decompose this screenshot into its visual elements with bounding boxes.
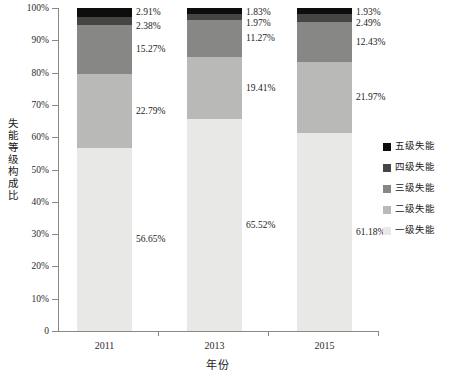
legend-swatch-icon xyxy=(383,164,391,172)
legend-item-一级失能[interactable]: 一级失能 xyxy=(383,220,455,241)
y-axis-tick-label-wrap: 70% xyxy=(0,100,49,110)
bar-2015 xyxy=(297,8,352,331)
data-label-2011-三级失能: 15.27% xyxy=(136,44,165,55)
bar-segment-一级失能 xyxy=(187,119,242,331)
bar-segment-二级失能 xyxy=(77,74,132,148)
y-axis-tick-label-wrap: 100% xyxy=(0,3,49,13)
y-axis-tick-label: 90% xyxy=(32,35,49,45)
y-axis-tick-label: 40% xyxy=(32,197,49,207)
bar-segment-五级失能 xyxy=(187,8,242,14)
y-axis-tick-label: 10% xyxy=(32,294,49,304)
y-axis-tick-label-wrap: 80% xyxy=(0,68,49,78)
legend-item-三级失能[interactable]: 三级失能 xyxy=(383,178,455,199)
stacked-bar-chart: 100%90%80%70%60%50%40%30%20%10%0 2011201… xyxy=(0,0,455,381)
legend-swatch-icon xyxy=(383,185,391,193)
data-label-2015-一级失能: 61.18% xyxy=(356,227,385,238)
bar-segment-三级失能 xyxy=(77,25,132,74)
y-axis-tick-label: 60% xyxy=(32,132,49,142)
bar-segment-三级失能 xyxy=(297,22,352,62)
y-axis-tick xyxy=(52,8,58,9)
legend-item-二级失能[interactable]: 二级失能 xyxy=(383,199,455,220)
data-label-2011-五级失能: 2.91% xyxy=(136,7,161,18)
legend-label: 一级失能 xyxy=(395,225,435,236)
bar-2011 xyxy=(77,8,132,331)
bar-segment-三级失能 xyxy=(187,20,242,56)
data-label-2013-五级失能: 1.83% xyxy=(246,7,271,18)
y-axis-tick xyxy=(52,73,58,74)
data-label-2015-二级失能: 21.97% xyxy=(356,92,385,103)
y-axis-tick xyxy=(52,40,58,41)
y-axis-tick-label: 20% xyxy=(32,261,49,271)
x-axis-line xyxy=(58,331,378,332)
x-axis-tick xyxy=(268,331,269,336)
data-label-2015-四级失能: 2.49% xyxy=(356,18,381,29)
bar-segment-四级失能 xyxy=(77,17,132,25)
data-label-2013-一级失能: 65.52% xyxy=(246,220,275,231)
y-axis-tick xyxy=(52,299,58,300)
y-axis-tick-label-wrap: 10% xyxy=(0,294,49,304)
bar-segment-一级失能 xyxy=(77,148,132,331)
y-axis-tick xyxy=(52,137,58,138)
y-axis-tick-label-wrap: 30% xyxy=(0,229,49,239)
legend: 五级失能四级失能三级失能二级失能一级失能 xyxy=(383,136,455,241)
y-axis-tick xyxy=(52,234,58,235)
y-axis-tick-label: 70% xyxy=(32,100,49,110)
data-label-2013-三级失能: 11.27% xyxy=(246,33,275,44)
bar-segment-二级失能 xyxy=(187,57,242,120)
y-axis-tick-label: 30% xyxy=(32,229,49,239)
y-axis-tick-label: 100% xyxy=(27,3,49,13)
x-axis-tick xyxy=(158,331,159,336)
legend-swatch-icon xyxy=(383,143,391,151)
data-label-2011-一级失能: 56.65% xyxy=(136,234,165,245)
legend-swatch-icon xyxy=(383,227,391,235)
bar-2013 xyxy=(187,8,242,331)
legend-swatch-icon xyxy=(383,206,391,214)
bar-segment-二级失能 xyxy=(297,62,352,133)
y-axis-title: 失能等级构成比 xyxy=(2,118,18,202)
x-axis-title: 年份 xyxy=(58,358,378,372)
data-label-2015-三级失能: 12.43% xyxy=(356,37,385,48)
y-axis-tick-label: 50% xyxy=(32,165,49,175)
bar-segment-五级失能 xyxy=(297,8,352,14)
legend-label: 五级失能 xyxy=(395,141,435,152)
x-axis-tick xyxy=(378,331,379,336)
y-axis-tick xyxy=(52,331,58,332)
y-axis-tick-label: 0 xyxy=(44,326,49,336)
bar-segment-一级失能 xyxy=(297,133,352,331)
bar-segment-四级失能 xyxy=(187,14,242,20)
y-axis-tick-label: 80% xyxy=(32,68,49,78)
legend-item-四级失能[interactable]: 四级失能 xyxy=(383,157,455,178)
legend-label: 四级失能 xyxy=(395,162,435,173)
x-axis-tick-label: 2011 xyxy=(70,340,140,352)
legend-label: 二级失能 xyxy=(395,204,435,215)
legend-item-五级失能[interactable]: 五级失能 xyxy=(383,136,455,157)
y-axis-line xyxy=(58,8,59,332)
data-label-2011-二级失能: 22.79% xyxy=(136,106,165,117)
data-label-2013-二级失能: 19.41% xyxy=(246,83,275,94)
y-axis-tick-label-wrap: 20% xyxy=(0,261,49,271)
data-label-2013-四级失能: 1.97% xyxy=(246,18,271,29)
bar-segment-四级失能 xyxy=(297,14,352,22)
data-label-2011-四级失能: 2.38% xyxy=(136,21,161,32)
y-axis-tick xyxy=(52,266,58,267)
x-axis-tick-label: 2013 xyxy=(180,340,250,352)
data-label-2015-五级失能: 1.93% xyxy=(356,7,381,18)
bar-segment-五级失能 xyxy=(77,8,132,17)
y-axis-tick-label-wrap: 0 xyxy=(0,326,49,336)
legend-label: 三级失能 xyxy=(395,183,435,194)
y-axis-tick xyxy=(52,170,58,171)
y-axis-tick xyxy=(52,202,58,203)
x-axis-tick-label: 2015 xyxy=(290,340,360,352)
y-axis-tick xyxy=(52,105,58,106)
y-axis-tick-label-wrap: 90% xyxy=(0,35,49,45)
